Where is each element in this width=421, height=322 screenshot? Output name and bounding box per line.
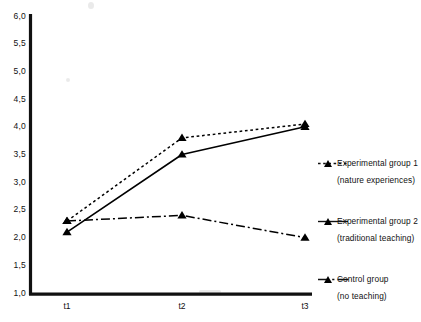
legend-sub-experimental-group-2: (traditional teaching) bbox=[337, 233, 421, 243]
legend-entry-experimental-group-1: Experimental group 1 (nature experiences… bbox=[312, 158, 421, 202]
y-axis-tick-label: 5,5 bbox=[2, 38, 26, 48]
y-axis-tick-label: 1,5 bbox=[2, 260, 26, 270]
legend-sub-control-group: (no teaching) bbox=[337, 291, 421, 301]
y-axis-tick-label: 2,0 bbox=[2, 232, 26, 242]
series-line-1 bbox=[67, 124, 305, 221]
series-layer bbox=[67, 124, 305, 238]
data-point-marker bbox=[177, 134, 186, 141]
legend-marker-triangle bbox=[324, 160, 332, 167]
y-axis-tick-label: 3,0 bbox=[2, 177, 26, 187]
x-axis-tick-label: t1 bbox=[54, 301, 80, 311]
legend-entry-control-group: Control group (no teaching) bbox=[312, 274, 421, 318]
legend-label-control-group: Control group bbox=[337, 274, 389, 284]
line-chart: 6,05,55,04,54,03,53,02,52,01,51,0 t1t2t3… bbox=[0, 0, 421, 322]
data-point-marker bbox=[177, 211, 186, 218]
y-axis-tick-label: 4,5 bbox=[2, 94, 26, 104]
legend-entry-experimental-group-2: Experimental group 2 (traditional teachi… bbox=[312, 216, 421, 260]
series-line-3 bbox=[67, 215, 305, 237]
x-axis-tick-label: t2 bbox=[169, 301, 195, 311]
chart-legend: Experimental group 1 (nature experiences… bbox=[312, 144, 421, 318]
y-axis-tick-label: 4,0 bbox=[2, 121, 26, 131]
data-point-marker bbox=[300, 233, 309, 240]
y-axis-tick-label: 1,0 bbox=[2, 288, 26, 298]
legend-sub-experimental-group-1: (nature experiences) bbox=[337, 175, 421, 185]
y-axis-tick-label: 6,0 bbox=[2, 11, 26, 21]
y-axis-tick-label: 5,0 bbox=[2, 66, 26, 76]
legend-marker-triangle bbox=[324, 218, 332, 225]
data-point-marker bbox=[62, 228, 71, 235]
legend-label-experimental-group-2: Experimental group 2 bbox=[337, 216, 418, 226]
y-axis-tick-label: 3,5 bbox=[2, 149, 26, 159]
legend-marker-triangle bbox=[324, 276, 332, 283]
legend-label-experimental-group-1: Experimental group 1 bbox=[337, 158, 418, 168]
y-axis-tick-label: 2,5 bbox=[2, 204, 26, 214]
